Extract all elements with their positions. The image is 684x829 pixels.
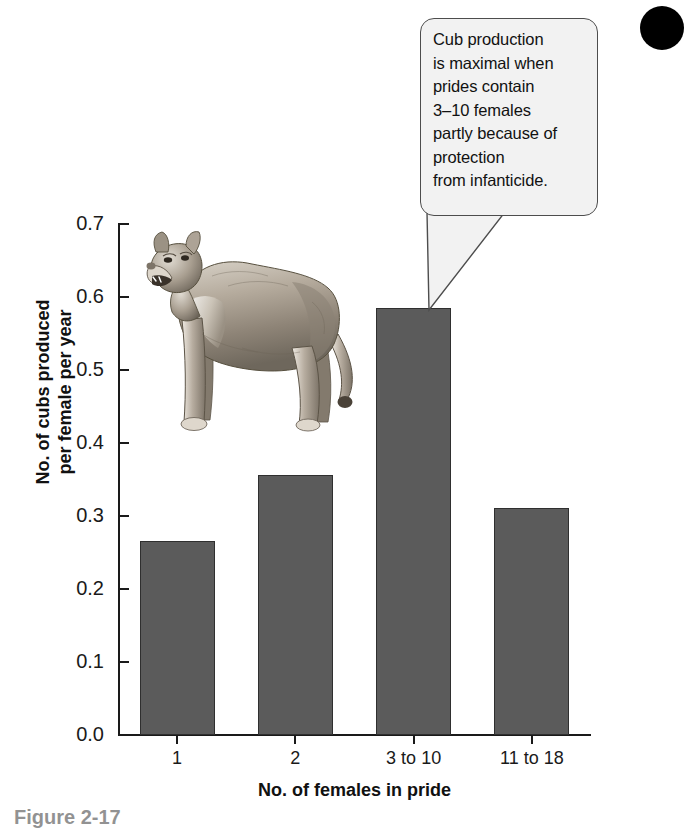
- x-tick-label: 3 to 10: [386, 748, 441, 769]
- x-tick-label: 11 to 18: [500, 748, 564, 769]
- bar[interactable]: [140, 541, 215, 735]
- x-tick: [294, 734, 296, 744]
- y-axis-title-line: No. of cubs produced: [32, 212, 54, 572]
- callout-annotation: Cub production is maximal when prides co…: [420, 18, 598, 216]
- callout-line-6: protection: [433, 146, 587, 170]
- callout-line-4: 3–10 females: [433, 99, 587, 123]
- y-tick: [118, 223, 129, 225]
- y-tick: [118, 661, 129, 663]
- x-tick-label: 1: [172, 748, 182, 769]
- y-tick: [118, 442, 129, 444]
- y-axis-line: [118, 224, 120, 736]
- y-axis-title: No. of cubs producedper female per year: [32, 212, 76, 572]
- x-tick: [531, 734, 533, 744]
- y-tick-label: 0.0: [46, 723, 104, 746]
- callout-line-1: Cub production: [433, 28, 587, 52]
- x-tick: [176, 734, 178, 744]
- x-tick: [413, 734, 415, 744]
- callout-line-7: from infanticide.: [433, 169, 587, 193]
- figure-caption: Figure 2-17: [14, 806, 121, 829]
- y-tick: [118, 296, 129, 298]
- callout-line-2: is maximal when: [433, 52, 587, 76]
- y-tick: [118, 588, 129, 590]
- y-axis-title-line: per female per year: [54, 212, 76, 572]
- y-tick: [118, 734, 129, 736]
- bar[interactable]: [494, 508, 569, 735]
- bar[interactable]: [258, 475, 333, 735]
- y-tick: [118, 515, 129, 517]
- x-axis-title: No. of females in pride: [118, 780, 591, 801]
- lion-illustration: [142, 216, 370, 436]
- x-tick-label: 2: [290, 748, 300, 769]
- callout-line-3: prides contain: [433, 75, 587, 99]
- bar[interactable]: [376, 308, 451, 735]
- y-tick-label: 0.2: [46, 577, 104, 600]
- y-tick: [118, 369, 129, 371]
- y-tick-label: 0.1: [46, 650, 104, 673]
- callout-line-5: partly because of: [433, 122, 587, 146]
